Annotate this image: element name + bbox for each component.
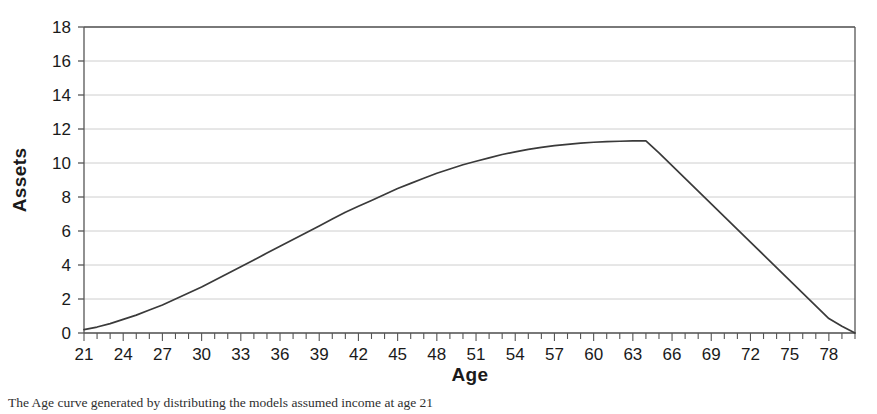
y-tick-label: 6 <box>62 222 71 241</box>
y-tick-label: 4 <box>62 256 71 275</box>
x-tick-label: 69 <box>702 345 721 364</box>
y-tick-label: 0 <box>62 324 71 343</box>
x-tick-label: 30 <box>192 345 211 364</box>
y-tick-label: 16 <box>52 52 71 71</box>
x-tick-label: 36 <box>271 345 290 364</box>
x-tick-label: 66 <box>663 345 682 364</box>
assets-vs-age-line-chart: 024681012141618 212427303336394245485154… <box>0 0 877 414</box>
x-tick-label: 27 <box>153 345 172 364</box>
y-tick-label: 12 <box>52 120 71 139</box>
x-tick-label: 45 <box>388 345 407 364</box>
x-tick-label: 24 <box>114 345 133 364</box>
x-tick-label: 63 <box>623 345 642 364</box>
y-tick-label: 18 <box>52 18 71 37</box>
x-tick-label: 54 <box>506 345 525 364</box>
figure-caption-text: The Age curve generated by distributing … <box>8 398 433 411</box>
x-tick-label: 51 <box>467 345 486 364</box>
y-tick-label: 8 <box>62 188 71 207</box>
x-tick-label: 39 <box>310 345 329 364</box>
y-tick-label: 2 <box>62 290 71 309</box>
figure-caption-clipped: The Age curve generated by distributing … <box>0 398 877 414</box>
x-tick-label: 78 <box>819 345 838 364</box>
x-tick-label: 48 <box>427 345 446 364</box>
x-tick-label: 57 <box>545 345 564 364</box>
x-tick-label: 42 <box>349 345 368 364</box>
y-axis-title: Assets <box>9 148 30 213</box>
x-tick-label: 75 <box>780 345 799 364</box>
y-tick-label: 10 <box>52 154 71 173</box>
x-tick-label: 60 <box>584 345 603 364</box>
x-tick-label: 33 <box>231 345 250 364</box>
x-tick-label: 21 <box>75 345 94 364</box>
figure-container: 024681012141618 212427303336394245485154… <box>0 0 877 414</box>
y-tick-label: 14 <box>52 86 71 105</box>
x-tick-label: 72 <box>741 345 760 364</box>
x-axis-title: Age <box>451 364 488 385</box>
